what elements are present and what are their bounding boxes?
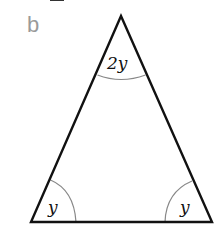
isosceles-triangle	[31, 16, 212, 222]
bottom-right-angle-label: y	[179, 197, 190, 217]
triangle-diagram: 2y y y	[0, 0, 217, 241]
apex-angle-arc	[98, 75, 146, 80]
bottom-left-angle-label: y	[47, 197, 58, 217]
apex-angle-label: 2y	[106, 53, 128, 73]
